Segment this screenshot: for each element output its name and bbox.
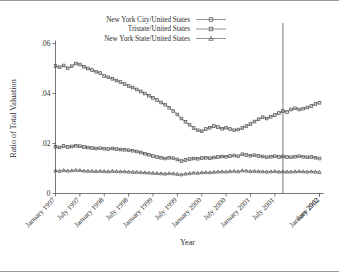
ratio-of-total-valuation-line-chart: New York City/United StatesTristate/Unit… (0, 1, 339, 272)
series-2 (54, 144, 321, 162)
chart-legend: New York City/United StatesTristate/Unit… (104, 16, 226, 43)
series-line (56, 64, 320, 132)
x-tick-label: January 1997 (24, 196, 57, 229)
x-axis-title: Year (180, 238, 195, 247)
chart-plot-area: New York City/United StatesTristate/Unit… (0, 1, 339, 272)
chart-series (54, 62, 321, 176)
series-1 (54, 62, 321, 132)
x-tick-label: June 2002 (294, 196, 321, 223)
legend-label-1: New York City/United States (106, 16, 190, 24)
y-tick-label: .02 (41, 139, 51, 148)
series-3 (54, 168, 321, 176)
y-tick-label: .04 (41, 89, 51, 98)
x-tick-label: July 2001 (251, 196, 277, 222)
legend-label-2: Tristate/United States (128, 25, 190, 33)
y-axis-title: Ratio of Total Valuation (9, 79, 18, 158)
legend-label-3: New York State/United States (104, 35, 190, 43)
y-tick-label: .06 (41, 39, 51, 48)
figure-canvas: New York City/United StatesTristate/Unit… (0, 0, 339, 272)
